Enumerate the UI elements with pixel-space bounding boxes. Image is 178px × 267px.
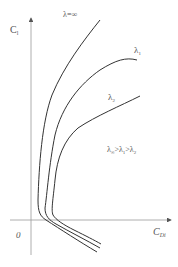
label-lambda-1: λ1 bbox=[134, 45, 141, 56]
relation-annotation: λ∞>λ1>λ2 bbox=[107, 145, 137, 155]
y-axis-label: Cl bbox=[10, 24, 19, 36]
origin-label: 0 bbox=[16, 230, 21, 240]
lift-drag-chart: Cl CDi 0 λ=∞ λ1 λ2 λ∞>λ1>λ2 bbox=[0, 0, 178, 267]
curve-lambda-2 bbox=[52, 96, 140, 244]
label-lambda-infinity: λ=∞ bbox=[63, 10, 77, 19]
x-axis-label: CDi bbox=[153, 226, 166, 238]
label-lambda-2: λ2 bbox=[108, 92, 115, 103]
